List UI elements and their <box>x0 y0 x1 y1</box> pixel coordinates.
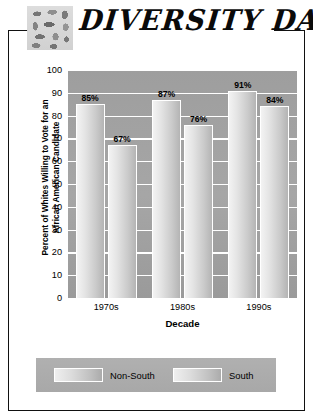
y-tick-label: 70 <box>52 133 62 143</box>
plot-area: 85%67%87%76%91%84% <box>68 70 297 298</box>
gridline <box>68 70 297 71</box>
y-tick-label: 100 <box>47 65 62 75</box>
bar-1980s-non-south <box>152 100 181 298</box>
bar-1980s-south <box>184 125 213 298</box>
bar-value-label: 91% <box>234 80 251 90</box>
bar-value-label: 84% <box>266 95 283 105</box>
y-tick-label: 40 <box>52 202 62 212</box>
page-title: DIVERSITY DATA <box>78 3 313 36</box>
y-tick-label: 0 <box>57 293 62 303</box>
y-tick-label: 80 <box>52 111 62 121</box>
y-tick-label: 50 <box>52 179 62 189</box>
bar-chart: Percent of Whites Willing to Vote for an… <box>16 62 297 338</box>
y-axis-tick-labels: 0102030405060708090100 <box>36 70 62 298</box>
bar-value-label: 85% <box>82 93 99 103</box>
mosaic-tiles-icon <box>27 6 73 50</box>
bar-swatch-non-south <box>54 368 103 382</box>
x-tick-label: 1970s <box>94 302 119 312</box>
y-tick-label: 10 <box>52 270 62 280</box>
bar-value-label: 67% <box>114 134 131 144</box>
x-tick-label: 1980s <box>170 302 195 312</box>
bar-swatch-south <box>173 368 222 382</box>
y-tick-label: 90 <box>52 88 62 98</box>
bar-1970s-south <box>108 145 137 298</box>
x-tick-label: 1990s <box>246 302 271 312</box>
bar-1990s-south <box>260 106 289 298</box>
bar-value-label: 87% <box>158 89 175 99</box>
x-axis-tick-labels: 1970s1980s1990s <box>68 302 297 316</box>
bar-1970s-non-south <box>76 104 105 298</box>
y-tick-label: 30 <box>52 225 62 235</box>
bar-1990s-non-south <box>228 91 257 298</box>
bar-value-label: 76% <box>190 114 207 124</box>
chart-legend: Non-SouthSouth <box>36 358 276 392</box>
x-axis-label: Decade <box>68 318 297 329</box>
y-tick-label: 60 <box>52 156 62 166</box>
header: DIVERSITY DATA <box>0 0 313 52</box>
legend-label: South <box>229 370 254 381</box>
gridline <box>68 93 297 94</box>
y-tick-label: 20 <box>52 247 62 257</box>
legend-label: Non-South <box>110 370 155 381</box>
legend-item-non-south: Non-South <box>54 368 155 382</box>
legend-item-south: South <box>173 368 254 382</box>
